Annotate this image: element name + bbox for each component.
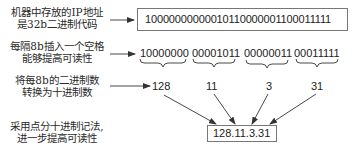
label-step4-line2: 进一步提高可读性 xyxy=(2,132,112,144)
label-step2-line1: 每隔8b插入一个空格 xyxy=(2,40,112,52)
dotted-decimal-box: 128.11.3.31 xyxy=(207,125,277,142)
label-step1-line1: 机器中存放的IP地址 xyxy=(2,6,112,18)
brace-icon xyxy=(246,60,288,68)
label-step3: 将每8b的二进制数 转换为十进制数 xyxy=(2,74,112,98)
byte-binary-1: 10000000 xyxy=(140,47,189,59)
label-step3-line2: 转换为十进制数 xyxy=(2,86,112,98)
label-step1-line2: 是32b二进制代码 xyxy=(2,18,112,30)
byte-binary-2: 00001011 xyxy=(192,47,240,59)
byte-binary-3: 00000011 xyxy=(244,47,292,59)
binary-box: 10000000000010110000001100011111 xyxy=(137,8,348,31)
byte-binary-4: 00011111 xyxy=(294,47,340,59)
byte-decimal-1: 128 xyxy=(152,80,170,92)
brace-icon xyxy=(140,59,186,67)
brace-icon xyxy=(296,59,338,67)
label-step2: 每隔8b插入一个空格 能够提高可读性 xyxy=(2,40,112,64)
arrow-128 xyxy=(164,95,216,124)
label-step2-line2: 能够提高可读性 xyxy=(2,52,112,64)
brace-group xyxy=(140,59,338,68)
byte-decimal-2: 11 xyxy=(206,80,217,92)
brace-icon xyxy=(193,59,235,67)
label-step4-line1: 采用点分十进制记法, xyxy=(2,120,112,132)
arrow-11 xyxy=(214,94,235,124)
byte-decimal-3: 3 xyxy=(266,80,272,92)
dotted-decimal-text: 128.11.3.31 xyxy=(213,127,270,139)
label-step1: 机器中存放的IP地址 是32b二进制代码 xyxy=(2,6,112,30)
label-step4: 采用点分十进制记法, 进一步提高可读性 xyxy=(2,120,112,144)
byte-decimal-4: 31 xyxy=(311,80,323,92)
label-step3-line1: 将每8b的二进制数 xyxy=(2,74,112,86)
binary-full-text: 10000000000010110000001100011111 xyxy=(145,13,331,25)
arrow-31 xyxy=(270,94,316,124)
arrow-3 xyxy=(252,94,268,124)
